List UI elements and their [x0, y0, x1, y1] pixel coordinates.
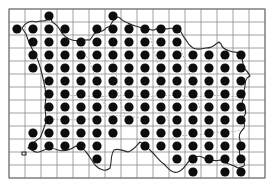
occurrence-dot	[44, 141, 53, 150]
occurrence-dot	[156, 141, 165, 150]
occurrence-dot	[92, 128, 101, 137]
occurrence-dot	[156, 76, 165, 85]
occurrence-dot	[76, 50, 85, 59]
occurrence-dot	[108, 24, 117, 33]
occurrence-dot	[92, 50, 101, 59]
occurrence-dot	[220, 128, 229, 137]
occurrence-dot	[204, 115, 213, 124]
occurrence-dot	[172, 128, 181, 137]
occurrence-dot	[44, 89, 53, 98]
occurrence-dot	[156, 37, 165, 46]
occurrence-dot	[156, 63, 165, 72]
occurrence-dot	[60, 141, 69, 150]
occurrence-dot	[60, 24, 69, 33]
occurrence-dot	[156, 102, 165, 111]
occurrence-dot	[76, 63, 85, 72]
occurrence-dot	[204, 89, 213, 98]
occurrence-dot	[188, 50, 197, 59]
occurrence-dot	[140, 76, 149, 85]
occurrence-dot	[220, 76, 229, 85]
occurrence-dot	[108, 89, 117, 98]
occurrence-dot	[220, 115, 229, 124]
occurrence-dot	[124, 115, 133, 124]
occurrence-dot	[188, 167, 197, 176]
occurrence-dot	[140, 24, 149, 33]
occurrence-dot	[76, 76, 85, 85]
occurrence-dot	[188, 115, 197, 124]
occurrence-dot	[236, 167, 245, 176]
occurrence-dot	[60, 115, 69, 124]
occurrence-dot	[236, 141, 245, 150]
occurrence-dot	[108, 128, 117, 137]
occurrence-dot	[124, 37, 133, 46]
occurrence-dot	[108, 115, 117, 124]
occurrence-dot	[156, 89, 165, 98]
occurrence-dot	[172, 89, 181, 98]
occurrence-dot	[220, 102, 229, 111]
occurrence-dot	[220, 167, 229, 176]
occurrence-dot	[60, 50, 69, 59]
occurrence-dot	[44, 24, 53, 33]
occurrence-dot	[44, 102, 53, 111]
occurrence-dot	[92, 37, 101, 46]
occurrence-dot	[140, 89, 149, 98]
occurrence-dot	[92, 63, 101, 72]
occurrence-dot	[28, 24, 37, 33]
occurrence-dot	[44, 115, 53, 124]
occurrence-dot	[44, 11, 53, 20]
occurrence-dot	[236, 102, 245, 111]
occurrence-dot	[204, 141, 213, 150]
occurrence-dot	[140, 128, 149, 137]
occurrence-dot	[124, 102, 133, 111]
occurrence-dot	[188, 63, 197, 72]
occurrence-dot	[124, 24, 133, 33]
occurrence-dot	[188, 89, 197, 98]
occurrence-dot	[60, 37, 69, 46]
occurrence-dot	[44, 63, 53, 72]
occurrence-dot	[76, 89, 85, 98]
occurrence-dot	[124, 50, 133, 59]
occurrence-dot	[156, 128, 165, 137]
occurrence-dot	[172, 24, 181, 33]
occurrence-dot	[108, 63, 117, 72]
occurrence-dot	[92, 76, 101, 85]
occurrence-dot	[188, 102, 197, 111]
occurrence-dot	[44, 128, 53, 137]
occurrence-dot	[204, 128, 213, 137]
occurrence-dot	[108, 11, 117, 20]
occurrence-dot	[92, 24, 101, 33]
occurrence-dot	[140, 115, 149, 124]
occurrence-dot	[124, 89, 133, 98]
occurrence-dot	[220, 141, 229, 150]
occurrence-dot	[236, 50, 245, 59]
occurrence-dot	[220, 50, 229, 59]
occurrence-dot	[92, 141, 101, 150]
occurrence-dot	[44, 76, 53, 85]
occurrence-dot	[124, 76, 133, 85]
occurrence-dot	[204, 50, 213, 59]
occurrence-dot	[140, 50, 149, 59]
occurrence-dot	[204, 102, 213, 111]
occurrence-dot	[60, 128, 69, 137]
occurrence-dot	[172, 63, 181, 72]
occurrence-dot	[172, 76, 181, 85]
occurrence-dot	[220, 154, 229, 163]
occurrence-dot	[172, 154, 181, 163]
occurrence-dot	[236, 154, 245, 163]
occurrence-dot	[28, 141, 37, 150]
occurrence-dot	[188, 128, 197, 137]
occurrence-dot	[236, 63, 245, 72]
occurrence-dot	[172, 115, 181, 124]
occurrence-dot	[60, 89, 69, 98]
occurrence-dot	[92, 115, 101, 124]
occurrence-dot	[28, 37, 37, 46]
occurrence-dot	[60, 63, 69, 72]
occurrence-dot	[108, 102, 117, 111]
occurrence-dot	[204, 76, 213, 85]
coastline	[22, 17, 250, 172]
occurrence-dot	[92, 154, 101, 163]
occurrence-dot	[92, 89, 101, 98]
occurrence-dot	[28, 63, 37, 72]
occurrence-dot	[172, 102, 181, 111]
occurrence-dot	[108, 50, 117, 59]
